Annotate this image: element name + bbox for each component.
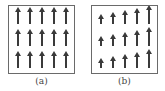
- up-arrow-icon: [15, 51, 21, 68]
- up-arrow-icon: [110, 56, 116, 68]
- up-arrow-icon: [39, 7, 45, 24]
- up-arrow-icon: [122, 10, 128, 24]
- up-arrow-icon: [39, 29, 45, 46]
- up-arrow-icon: [122, 54, 128, 68]
- up-arrow-icon: [15, 7, 21, 24]
- up-arrow-icon: [27, 7, 33, 24]
- up-arrow-icon: [134, 8, 140, 24]
- up-arrow-icon: [146, 27, 152, 46]
- up-arrow-icon: [51, 29, 57, 46]
- up-arrow-icon: [39, 51, 45, 68]
- up-arrow-icon: [51, 51, 57, 68]
- up-arrow-icon: [134, 52, 140, 68]
- up-arrow-icon: [146, 6, 152, 24]
- up-arrow-icon: [51, 7, 57, 24]
- caption-b: (b): [91, 76, 158, 86]
- up-arrow-icon: [110, 34, 116, 46]
- up-arrow-icon: [63, 29, 69, 46]
- up-arrow-icon: [146, 49, 152, 68]
- up-arrow-icon: [98, 58, 104, 68]
- up-arrow-icon: [134, 30, 140, 46]
- arrow-grid-a: [9, 6, 76, 75]
- up-arrow-icon: [27, 51, 33, 68]
- arrow-grid-b: [92, 6, 159, 75]
- up-arrow-icon: [122, 32, 128, 46]
- up-arrow-icon: [63, 51, 69, 68]
- up-arrow-icon: [98, 36, 104, 46]
- up-arrow-icon: [110, 12, 116, 24]
- up-arrow-icon: [98, 14, 104, 24]
- up-arrow-icon: [27, 29, 33, 46]
- caption-a: (a): [8, 76, 75, 86]
- panel-b-nonuniform-field: [91, 5, 158, 74]
- panel-a-uniform-field: [8, 5, 75, 74]
- up-arrow-icon: [63, 7, 69, 24]
- up-arrow-icon: [15, 29, 21, 46]
